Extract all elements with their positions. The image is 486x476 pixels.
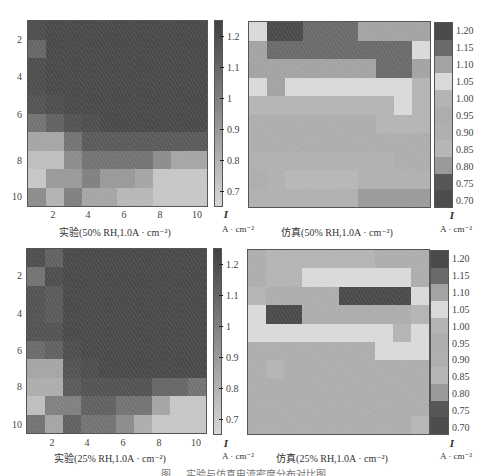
heatmap-cell — [63, 286, 81, 304]
heatmap-cell — [45, 415, 63, 433]
heatmap-cell — [81, 359, 99, 377]
heatmap-cell — [152, 304, 170, 322]
colorbar-tick-mark — [220, 98, 224, 99]
heatmap-cell — [153, 21, 171, 40]
colorbar-tick-label: 1.2 — [226, 258, 239, 269]
heatmap-cell — [411, 250, 429, 268]
heatmap-cell — [320, 342, 338, 360]
heatmap-cell — [376, 22, 394, 41]
colorbar-discrete — [434, 22, 453, 208]
heatmap-cell — [100, 114, 118, 133]
heatmap-cell — [375, 287, 393, 305]
heatmap-cell — [64, 114, 82, 133]
colorbar-tick-label: 0.8 — [227, 155, 240, 166]
colorbar-tick-mark — [219, 357, 223, 358]
heatmap-cell — [117, 21, 135, 40]
heatmap-cell — [99, 249, 117, 267]
heatmap-cell — [99, 267, 117, 285]
heatmap-cell — [46, 151, 64, 170]
colorbar-tick-label: 1.2 — [227, 30, 240, 41]
heatmap-cell — [152, 359, 170, 377]
heatmap-cell — [411, 360, 429, 378]
heatmap-cell — [188, 415, 206, 433]
heatmap-cell — [320, 379, 338, 397]
heatmap-cell — [171, 58, 189, 77]
heatmap-cell — [302, 268, 320, 286]
heatmap-cell — [320, 360, 338, 378]
heatmap-cell — [171, 77, 189, 96]
heatmap-cell — [303, 133, 321, 152]
heatmap-cell — [248, 360, 266, 378]
heatmap-cell — [267, 133, 285, 152]
heatmap-cell — [284, 360, 302, 378]
heatmap-cell — [82, 95, 100, 114]
heatmap-cell — [376, 133, 394, 152]
heatmap-cell — [249, 22, 267, 41]
heatmap-cell — [284, 324, 302, 342]
colorbar-tick-mark — [220, 129, 224, 130]
heatmap-cell — [99, 341, 117, 359]
heatmap-cell — [64, 169, 82, 188]
heatmap-cell — [189, 169, 207, 188]
heatmap-cell — [100, 21, 118, 40]
heatmap-cell — [81, 249, 99, 267]
heatmap-cell — [135, 95, 153, 114]
heatmap-cell — [340, 189, 358, 208]
heatmap-cell — [412, 41, 430, 60]
heatmap-cell — [267, 22, 285, 41]
heatmap-cell — [357, 397, 375, 415]
heatmap-cell — [267, 115, 285, 134]
heatmap-cell — [393, 324, 411, 342]
x-tick: 4 — [86, 209, 91, 220]
heatmap-cell — [116, 249, 134, 267]
heatmap-cell — [394, 115, 412, 134]
heatmap-cell — [358, 78, 376, 97]
colorbar-tick-label: 0.80 — [456, 160, 474, 171]
heatmap-cell — [266, 305, 284, 323]
heatmap-cell — [394, 189, 412, 208]
heatmap-cell — [45, 341, 63, 359]
heatmap-cell — [81, 396, 99, 414]
colorbar-tick-label: 0.75 — [452, 404, 470, 415]
heatmap-cell — [99, 378, 117, 396]
heatmap-cell — [375, 305, 393, 323]
heatmap-cell — [412, 59, 430, 78]
heatmap-cell — [189, 40, 207, 59]
heatmap-cell — [321, 115, 339, 134]
heatmap-cell — [249, 189, 267, 208]
heatmap-cell — [285, 133, 303, 152]
heatmap-cell — [411, 416, 429, 434]
heatmap-cell — [170, 415, 188, 433]
heatmap-cell — [117, 40, 135, 59]
heatmap-cell — [135, 169, 153, 188]
heatmap-cell — [321, 78, 339, 97]
heatmap-cell — [358, 152, 376, 171]
heatmap-cell — [339, 287, 357, 305]
heatmap-cell — [45, 286, 63, 304]
heatmap-cell — [189, 77, 207, 96]
heatmap-cell — [412, 78, 430, 97]
heatmap-cell — [189, 21, 207, 40]
colorbar-tick-label: 1.1 — [226, 289, 239, 300]
y-tick: 6 — [8, 109, 22, 120]
colorbar-discrete — [430, 250, 449, 435]
heatmap-cell — [285, 189, 303, 208]
heatmap-cell — [134, 304, 152, 322]
heatmap-cell — [64, 21, 82, 40]
colorbar-tick-label: 1.10 — [456, 59, 474, 70]
heatmap-cell — [82, 114, 100, 133]
colorbar-tick-label: 1.20 — [452, 253, 470, 264]
heatmap-cell — [303, 22, 321, 41]
colorbar-tick-label: 0.85 — [456, 143, 474, 154]
heatmap-cell — [320, 250, 338, 268]
heatmap-cell — [28, 95, 46, 114]
heatmap-cell — [188, 359, 206, 377]
heatmap-cell — [340, 133, 358, 152]
heatmap-cell — [152, 415, 170, 433]
heatmap-cell — [340, 78, 358, 97]
heatmap-cell — [320, 268, 338, 286]
heatmap-cell — [248, 397, 266, 415]
colorbar-tick-label: 0.95 — [456, 110, 474, 121]
heatmap-cell — [189, 95, 207, 114]
heatmap-cell — [302, 360, 320, 378]
